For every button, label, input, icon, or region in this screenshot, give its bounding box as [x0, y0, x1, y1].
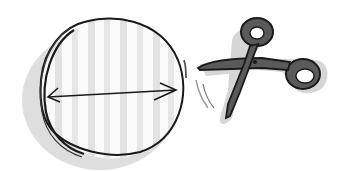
- illustration: Hand-drawn sketch: a striped circle with…: [0, 0, 348, 171]
- scissors-icon: [198, 18, 320, 118]
- illustration-svg: [0, 0, 348, 171]
